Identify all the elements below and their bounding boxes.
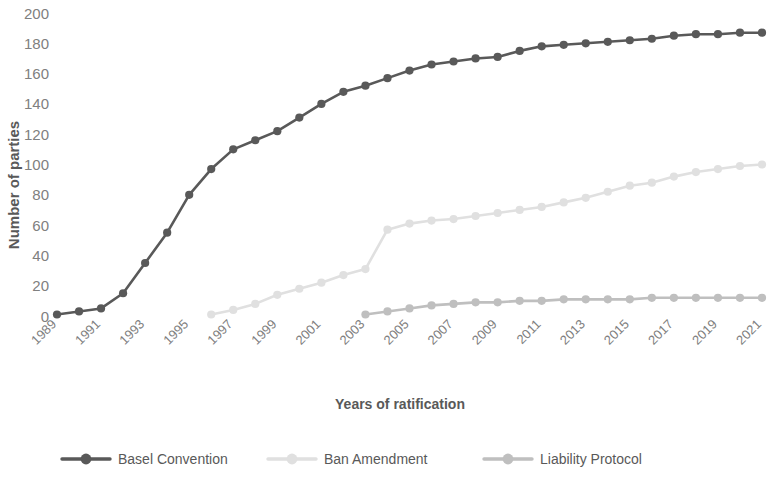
data-point-marker: [538, 203, 546, 211]
data-point-marker: [471, 298, 479, 306]
data-point-marker: [516, 206, 524, 214]
y-tick-label: 20: [32, 277, 49, 294]
data-point-marker: [119, 289, 127, 297]
data-point-marker: [670, 294, 678, 302]
legend-marker-icon: [287, 454, 298, 465]
data-point-marker: [229, 306, 237, 314]
data-point-marker: [405, 219, 413, 227]
data-point-marker: [317, 279, 325, 287]
data-point-marker: [692, 294, 700, 302]
data-point-marker: [604, 38, 612, 46]
data-point-marker: [339, 271, 347, 279]
data-point-marker: [758, 160, 766, 168]
data-point-marker: [163, 229, 171, 237]
data-point-marker: [560, 41, 568, 49]
data-point-marker: [494, 53, 502, 61]
data-point-marker: [758, 29, 766, 37]
data-point-marker: [648, 35, 656, 43]
data-point-marker: [383, 307, 391, 315]
data-point-marker: [383, 226, 391, 234]
data-point-marker: [361, 265, 369, 273]
legend-marker-icon: [503, 454, 514, 465]
data-point-marker: [516, 297, 524, 305]
data-point-marker: [229, 145, 237, 153]
data-point-marker: [295, 113, 303, 121]
data-point-marker: [692, 30, 700, 38]
data-point-marker: [626, 36, 634, 44]
legend-marker-icon: [81, 454, 92, 465]
data-point-marker: [251, 300, 259, 308]
data-point-marker: [273, 291, 281, 299]
data-point-marker: [560, 295, 568, 303]
data-point-marker: [53, 310, 61, 318]
data-point-marker: [736, 162, 744, 170]
y-tick-label: 100: [24, 156, 49, 173]
data-point-marker: [692, 168, 700, 176]
data-point-marker: [494, 209, 502, 217]
data-point-marker: [648, 179, 656, 187]
line-chart: Number of parties 0204060801001201401601…: [0, 0, 769, 477]
x-axis-title: Years of ratification: [335, 396, 465, 412]
data-point-marker: [75, 307, 83, 315]
data-point-marker: [494, 298, 502, 306]
data-point-marker: [604, 188, 612, 196]
data-point-marker: [273, 127, 281, 135]
data-point-marker: [97, 304, 105, 312]
data-point-marker: [251, 136, 259, 144]
data-point-marker: [714, 165, 722, 173]
data-point-marker: [449, 215, 457, 223]
y-tick-label: 120: [24, 126, 49, 143]
data-point-marker: [317, 100, 325, 108]
data-point-marker: [604, 295, 612, 303]
data-point-marker: [207, 165, 215, 173]
y-tick-label: 40: [32, 247, 49, 264]
data-point-marker: [626, 182, 634, 190]
y-tick-label: 60: [32, 217, 49, 234]
legend-label: Liability Protocol: [540, 451, 642, 467]
data-point-marker: [405, 66, 413, 74]
data-point-marker: [471, 212, 479, 220]
data-point-marker: [714, 30, 722, 38]
data-point-marker: [449, 300, 457, 308]
y-tick-label: 140: [24, 95, 49, 112]
chart-container: Number of parties 0204060801001201401601…: [0, 0, 769, 477]
data-point-marker: [516, 47, 524, 55]
y-axis-title: Number of parties: [5, 121, 22, 249]
y-tick-label: 180: [24, 35, 49, 52]
data-point-marker: [471, 54, 479, 62]
data-point-marker: [427, 60, 435, 68]
data-point-marker: [736, 294, 744, 302]
data-point-marker: [339, 88, 347, 96]
data-point-marker: [207, 310, 215, 318]
data-point-marker: [736, 29, 744, 37]
data-point-marker: [361, 310, 369, 318]
data-point-marker: [582, 295, 590, 303]
data-point-marker: [714, 294, 722, 302]
data-point-marker: [560, 198, 568, 206]
data-point-marker: [626, 295, 634, 303]
data-point-marker: [405, 304, 413, 312]
data-point-marker: [538, 42, 546, 50]
data-point-marker: [582, 39, 590, 47]
data-point-marker: [185, 191, 193, 199]
data-point-marker: [670, 32, 678, 40]
y-tick-label: 80: [32, 186, 49, 203]
data-point-marker: [141, 259, 149, 267]
data-point-marker: [670, 173, 678, 181]
chart-legend: Basel ConventionBan AmendmentLiability P…: [62, 451, 642, 467]
y-tick-label: 200: [24, 5, 49, 22]
data-point-marker: [295, 285, 303, 293]
data-point-marker: [449, 57, 457, 65]
data-point-marker: [383, 74, 391, 82]
data-point-marker: [758, 294, 766, 302]
data-point-marker: [361, 82, 369, 90]
legend-label: Ban Amendment: [324, 451, 428, 467]
data-point-marker: [582, 194, 590, 202]
data-point-marker: [538, 297, 546, 305]
data-point-marker: [427, 216, 435, 224]
legend-label: Basel Convention: [118, 451, 228, 467]
y-tick-label: 160: [24, 65, 49, 82]
data-point-marker: [427, 301, 435, 309]
data-point-marker: [648, 294, 656, 302]
